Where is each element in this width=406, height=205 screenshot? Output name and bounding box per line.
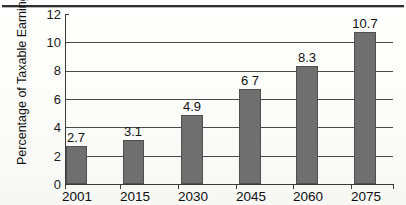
gridline-10 bbox=[65, 42, 393, 43]
gridline-2 bbox=[65, 156, 393, 157]
x-tick-label-2060: 2060 bbox=[285, 189, 331, 204]
bar-value-2060: 8.3 bbox=[289, 51, 325, 65]
y-tick-label-12: 12 bbox=[35, 8, 61, 21]
bar-2075[interactable] bbox=[354, 32, 376, 184]
y-tick-label-6: 6 bbox=[35, 93, 61, 106]
x-tick-label-2015: 2015 bbox=[112, 189, 158, 204]
bar-value-2075: 10.7 bbox=[347, 17, 383, 31]
y-axis-ticks: 12 10 8 6 4 2 0 bbox=[30, 0, 61, 205]
gridline-6 bbox=[65, 99, 393, 100]
bar-value-2045: 6 7 bbox=[232, 74, 268, 88]
x-tick-label-2045: 2045 bbox=[228, 189, 274, 204]
bar-2045[interactable] bbox=[239, 89, 261, 184]
plot-area: 2.7 3.1 4.9 6 7 8.3 10.7 bbox=[65, 14, 393, 184]
x-tick-label-2030: 2030 bbox=[170, 189, 216, 204]
bar-2001[interactable] bbox=[66, 146, 87, 184]
x-tick-mark-6 bbox=[393, 184, 394, 189]
bar-chart-figure: Percentage of Taxable Earnings 12 10 8 6… bbox=[0, 0, 406, 205]
y-tick-label-2: 2 bbox=[35, 150, 61, 163]
bar-value-2001: 2.7 bbox=[58, 131, 94, 145]
y-axis-title: Percentage of Taxable Earnings bbox=[15, 0, 29, 165]
x-tick-label-2075: 2075 bbox=[343, 189, 389, 204]
y-tick-label-10: 10 bbox=[35, 36, 61, 49]
x-axis-line bbox=[65, 184, 394, 185]
x-tick-label-2001: 2001 bbox=[54, 189, 100, 204]
bar-2060[interactable] bbox=[296, 66, 318, 184]
bar-value-2030: 4.9 bbox=[174, 100, 210, 114]
gridline-8 bbox=[65, 71, 393, 72]
bar-2030[interactable] bbox=[181, 115, 203, 184]
bar-value-2015: 3.1 bbox=[115, 125, 151, 139]
y-tick-label-8: 8 bbox=[35, 64, 61, 77]
bar-2015[interactable] bbox=[123, 140, 144, 184]
top-horizontal-rule-shadow bbox=[2, 7, 404, 8]
